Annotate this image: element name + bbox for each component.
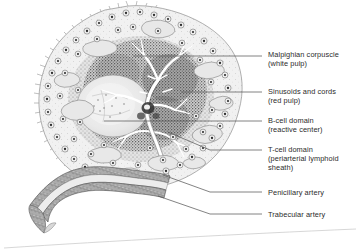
label-t-cell-domain: T-cell domain(periarterial lymphoidsheat… bbox=[268, 145, 339, 173]
label-sinusoids-and-cords: Sinusoids and cords(red pulp) bbox=[268, 87, 336, 105]
label-b-cell-domain-line2: (reactive center) bbox=[268, 125, 323, 134]
figure-canvas: Malpighian corpuscle(white pulp)Sinusoid… bbox=[0, 0, 360, 251]
trabecular-vessel bbox=[29, 167, 170, 233]
leader-line-trabecular-artery bbox=[158, 196, 262, 214]
label-sinusoids-and-cords-line2: (red pulp) bbox=[268, 96, 336, 105]
label-t-cell-domain-line2: (periarterial lymphoid bbox=[268, 154, 339, 163]
label-malpighian-corpuscle: Malpighian corpuscle(white pulp) bbox=[268, 50, 339, 68]
label-trabecular-artery: Trabecular artery bbox=[268, 210, 325, 219]
label-sinusoids-and-cords-line1: Sinusoids and cords bbox=[268, 87, 336, 96]
label-malpighian-corpuscle-line1: Malpighian corpuscle bbox=[268, 50, 339, 59]
page-edge-line bbox=[4, 229, 356, 248]
label-trabecular-artery-line1: Trabecular artery bbox=[268, 210, 325, 219]
label-b-cell-domain-line1: B-cell domain bbox=[268, 116, 323, 125]
label-b-cell-domain: B-cell domain(reactive center) bbox=[268, 116, 323, 134]
label-t-cell-domain-line1: T-cell domain bbox=[268, 145, 339, 154]
label-penicillary-artery: Penicillary artery bbox=[268, 188, 324, 197]
label-t-cell-domain-line3: sheath) bbox=[268, 163, 339, 172]
label-penicillary-artery-line1: Penicillary artery bbox=[268, 188, 324, 197]
label-malpighian-corpuscle-line2: (white pulp) bbox=[268, 59, 339, 68]
